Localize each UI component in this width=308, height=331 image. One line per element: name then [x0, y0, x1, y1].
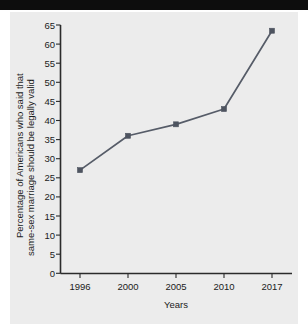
scan-top-bar — [0, 0, 308, 10]
y-tick-label-15: 15 — [44, 211, 55, 222]
x-axis-title: Years — [164, 299, 188, 310]
chart-svg: Percentage of Americans who said that sa… — [10, 12, 298, 324]
series-line — [80, 31, 272, 170]
x-tick-label-2000: 2000 — [117, 281, 138, 292]
y-axis-title: Percentage of Americans who said that sa… — [14, 73, 36, 256]
x-axis-tick-labels: 1996 2000 2005 2010 2017 — [69, 281, 282, 292]
y-tick-label-60: 60 — [44, 39, 55, 50]
x-tick-label-2017: 2017 — [261, 281, 282, 292]
y-tick-label-25: 25 — [44, 172, 55, 183]
y-tick-label-45: 45 — [44, 96, 55, 107]
y-tick-label-30: 30 — [44, 153, 55, 164]
y-tick-label-5: 5 — [50, 249, 55, 260]
data-point-2017 — [270, 28, 275, 33]
y-tick-label-55: 55 — [44, 58, 55, 69]
data-point-1996 — [78, 168, 83, 173]
y-tick-label-0: 0 — [50, 268, 55, 279]
y-axis-title-line2: same-sex marriage should be legally vali… — [25, 79, 36, 256]
data-point-2000 — [126, 133, 131, 138]
y-tick-label-10: 10 — [44, 230, 55, 241]
y-tick-label-65: 65 — [44, 20, 55, 31]
x-tick-label-1996: 1996 — [69, 281, 90, 292]
y-tick-label-35: 35 — [44, 134, 55, 145]
y-tick-label-40: 40 — [44, 115, 55, 126]
y-tick-label-50: 50 — [44, 77, 55, 88]
data-point-2005 — [174, 122, 179, 127]
data-point-2010 — [222, 107, 227, 112]
x-tick-label-2005: 2005 — [165, 281, 186, 292]
y-tick-label-20: 20 — [44, 191, 55, 202]
page-background: Percentage of Americans who said that sa… — [0, 0, 308, 331]
y-axis-title-line1: Percentage of Americans who said that — [14, 73, 25, 238]
figure-panel: Percentage of Americans who said that sa… — [10, 12, 298, 324]
line-chart: Percentage of Americans who said that sa… — [10, 12, 298, 324]
y-axis-tick-labels: 65 60 55 50 45 40 35 30 25 20 15 10 5 0 — [44, 20, 55, 279]
x-tick-label-2010: 2010 — [213, 281, 234, 292]
